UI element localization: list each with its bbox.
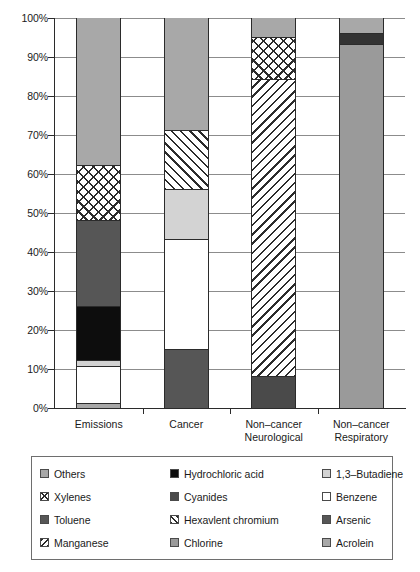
bar-segment[interactable] [165, 190, 208, 241]
legend-item-label: Benzene [336, 491, 377, 503]
legend-item[interactable]: 1,3–Butadiene [322, 462, 403, 485]
y-axis-tick-label: 100% [22, 12, 48, 24]
bar-segment[interactable] [77, 221, 120, 307]
bar-stack [339, 18, 384, 408]
legend-swatch-solid-dark-gray [40, 515, 49, 524]
segment-divider [77, 306, 120, 307]
segment-divider [77, 220, 120, 221]
bar-column[interactable] [76, 18, 121, 408]
legend-item-label: 1,3–Butadiene [336, 468, 403, 480]
legend-item-label: Toluene [54, 514, 90, 526]
chart-page: 0%10%20%30%40%50%60%70%80%90%100% Emissi… [0, 0, 420, 572]
legend-swatch-solid-dark-gray [322, 515, 331, 524]
legend-swatch-solid-white [322, 492, 331, 501]
legend-item-label: Hydrochloric acid [184, 468, 264, 480]
y-axis-tick-mark [48, 291, 54, 292]
legend-item[interactable]: Chlorine [170, 531, 322, 554]
legend-item-label: Acrolein [336, 537, 374, 549]
legend-item[interactable]: Arsenic [322, 508, 403, 531]
bar-stack [76, 18, 121, 408]
legend-item[interactable]: Acrolein [322, 531, 403, 554]
y-axis-tick-label: 30% [27, 285, 48, 297]
x-axis-category-label-line: Emissions [55, 418, 143, 431]
legend-item-label: Others [54, 468, 85, 480]
legend-item[interactable]: Others [40, 462, 170, 485]
legend-swatch-crosshatch [40, 492, 49, 501]
y-axis-tick-mark [48, 213, 54, 214]
y-axis-tick-mark [48, 252, 54, 253]
y-axis-tick-mark [48, 135, 54, 136]
y-axis: 0%10%20%30%40%50%60%70%80%90%100% [4, 18, 48, 408]
legend-item-label: Cyanides [184, 491, 227, 503]
bar-segment[interactable] [77, 18, 120, 166]
legend-swatch-solid-dark-gray [170, 492, 179, 501]
bar-column[interactable] [339, 18, 384, 408]
segment-divider [340, 33, 383, 34]
legend-swatch-diagonal-hatch-back [40, 538, 49, 547]
legend-item[interactable]: Manganese [40, 531, 170, 554]
y-axis-tick-mark [48, 96, 54, 97]
segment-divider [165, 239, 208, 240]
bar-segment[interactable] [165, 350, 208, 409]
x-axis-tick-mark [143, 409, 144, 414]
x-axis-category-label-line: Non–cancer [230, 418, 318, 431]
bar-segment[interactable] [340, 45, 383, 408]
legend-item[interactable]: Xylenes [40, 485, 170, 508]
segment-divider [252, 37, 295, 38]
legend-item[interactable]: Hydrochloric acid [170, 462, 322, 485]
bar-segment[interactable] [165, 18, 208, 131]
y-axis-tick-mark [48, 408, 54, 409]
x-axis-category-label: Non–cancerRespiratory [318, 418, 406, 443]
legend-item-label: Chlorine [184, 537, 223, 549]
bar-stack [251, 18, 296, 408]
x-axis-category-label-line: Non–cancer [318, 418, 406, 431]
segment-divider [252, 79, 295, 80]
segment-divider [165, 130, 208, 131]
legend-item-label: Xylenes [54, 491, 91, 503]
legend-item[interactable]: Toluene [40, 508, 170, 531]
x-axis-tick-mark [318, 409, 319, 414]
bar-segment[interactable] [165, 240, 208, 349]
y-axis-tick-mark [48, 369, 54, 370]
legend-swatch-diagonal-hatch-forward [170, 515, 179, 524]
plot-area [55, 18, 405, 408]
y-axis-tick-label: 80% [27, 90, 48, 102]
legend-item[interactable]: Benzene [322, 485, 403, 508]
segment-divider [77, 360, 120, 361]
bar-segment[interactable] [252, 377, 295, 408]
legend-grid: OthersHydrochloric acid1,3–ButadieneXyle… [32, 457, 392, 559]
bar-segment[interactable] [252, 80, 295, 376]
legend-swatch-solid-gray [322, 538, 331, 547]
legend-item[interactable]: Hexavlent chromium [170, 508, 322, 531]
bar-segment[interactable] [77, 367, 120, 404]
bar-segment[interactable] [340, 18, 383, 34]
bar-column[interactable] [164, 18, 209, 408]
bar-segment[interactable] [252, 38, 295, 81]
y-axis-tick-mark [48, 57, 54, 58]
y-axis-tick-mark [48, 18, 54, 19]
y-axis-tick-label: 70% [27, 129, 48, 141]
legend-swatch-solid-black [170, 469, 179, 478]
y-axis-tick-mark [48, 174, 54, 175]
y-axis-tick-label: 40% [27, 246, 48, 258]
y-axis-tick-label: 0% [33, 402, 48, 414]
y-axis-tick-label: 60% [27, 168, 48, 180]
segment-divider [165, 189, 208, 190]
legend-item-label: Manganese [54, 537, 108, 549]
bar-segment[interactable] [77, 166, 120, 221]
legend-swatch-solid-light-gray [322, 469, 331, 478]
segment-divider [77, 403, 120, 404]
bar-column[interactable] [251, 18, 296, 408]
legend-item[interactable]: Cyanides [170, 485, 322, 508]
legend-swatch-solid-gray [40, 469, 49, 478]
x-axis-category-label: Cancer [143, 418, 231, 431]
y-axis-tick-label: 20% [27, 324, 48, 336]
segment-divider [340, 44, 383, 45]
bar-segment[interactable] [252, 18, 295, 38]
bar-segment[interactable] [165, 131, 208, 190]
bar-segment[interactable] [77, 307, 120, 362]
chart-legend: OthersHydrochloric acid1,3–ButadieneXyle… [31, 456, 393, 560]
x-axis-category-label: Emissions [55, 418, 143, 431]
segment-divider [77, 165, 120, 166]
y-axis-tick-label: 50% [27, 207, 48, 219]
